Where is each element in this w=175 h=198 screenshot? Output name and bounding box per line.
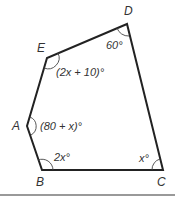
vertex-label-c: C	[157, 175, 166, 189]
vertex-label-e: E	[37, 41, 46, 55]
bottom-divider	[0, 194, 175, 196]
angle-label-a: (80 + x)°	[40, 120, 83, 132]
angle-label-b: 2x°	[53, 151, 71, 163]
vertex-label-d: D	[124, 4, 133, 18]
pentagon-outline	[27, 24, 163, 170]
angle-label-d: 60°	[106, 39, 123, 51]
vertex-label-b: B	[36, 175, 44, 189]
angle-arc-c	[152, 159, 160, 170]
angle-label-e: (2x + 10)°	[56, 66, 105, 78]
pentagon-diagram: D E A B C 60° (2x + 10)° (80 + x)° 2x° x…	[0, 0, 175, 198]
angle-label-c: x°	[138, 152, 150, 164]
angle-arc-d	[117, 28, 129, 36]
angle-arc-a	[30, 117, 36, 135]
vertex-label-a: A	[11, 119, 20, 133]
